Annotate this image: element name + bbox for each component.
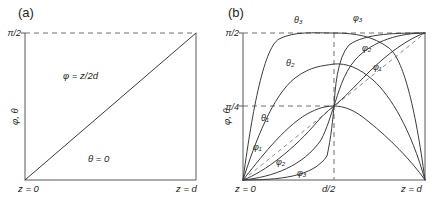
panel-a-plot-area xyxy=(0,0,221,202)
figure-container: (a) φ, θ π/2 z = 0 z = d φ = z/2d θ = 0 … xyxy=(0,0,442,202)
panel-b: (b) φ, θ π/2 π/4 z = 0 d/2 z = d θ₃ φ₃ φ… xyxy=(221,0,442,202)
panel-a: (a) φ, θ π/2 z = 0 z = d φ = z/2d θ = 0 xyxy=(0,0,221,202)
panel-a-phi-curve xyxy=(25,33,196,180)
panel-b-plot-area xyxy=(221,0,442,202)
